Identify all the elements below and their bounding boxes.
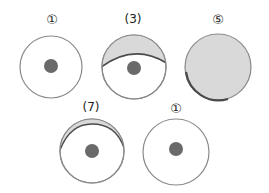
pupil-dot-1-top bbox=[44, 59, 58, 73]
figure-label-1-top: ① bbox=[46, 12, 58, 27]
figure-label-3: (3) bbox=[125, 12, 142, 26]
figure-1-top: ① bbox=[20, 12, 82, 99]
figure-7: (7) bbox=[60, 100, 124, 183]
figure-label-7: (7) bbox=[83, 100, 100, 114]
figure-5: ⑤ bbox=[185, 12, 251, 101]
figure-1-bottom: ① bbox=[143, 101, 209, 186]
pupil-dot-1-bottom bbox=[169, 142, 183, 156]
diagram-canvas: ① (3) ⑤ (7) ① bbox=[0, 0, 269, 193]
pupil-dot-3 bbox=[127, 61, 141, 75]
figure-label-5: ⑤ bbox=[212, 12, 224, 27]
figure-3: (3) bbox=[100, 12, 168, 99]
figure-label-1-bottom: ① bbox=[170, 101, 182, 116]
pupil-dot-7 bbox=[85, 144, 99, 158]
